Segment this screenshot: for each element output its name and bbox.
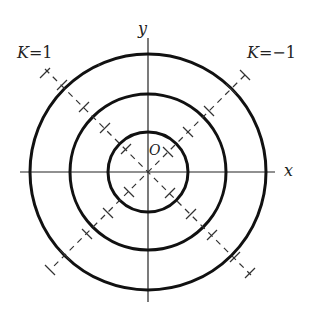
dot-mark (98, 64, 100, 66)
y-axis-label: y (137, 19, 148, 38)
diagram-canvas: y x O K=1 K=−1 (0, 0, 312, 313)
k-minus-1-label: K=−1 (246, 43, 296, 62)
origin-label: O (149, 142, 161, 158)
x-axis-label: x (284, 161, 293, 180)
k1-label: K=1 (16, 43, 53, 62)
